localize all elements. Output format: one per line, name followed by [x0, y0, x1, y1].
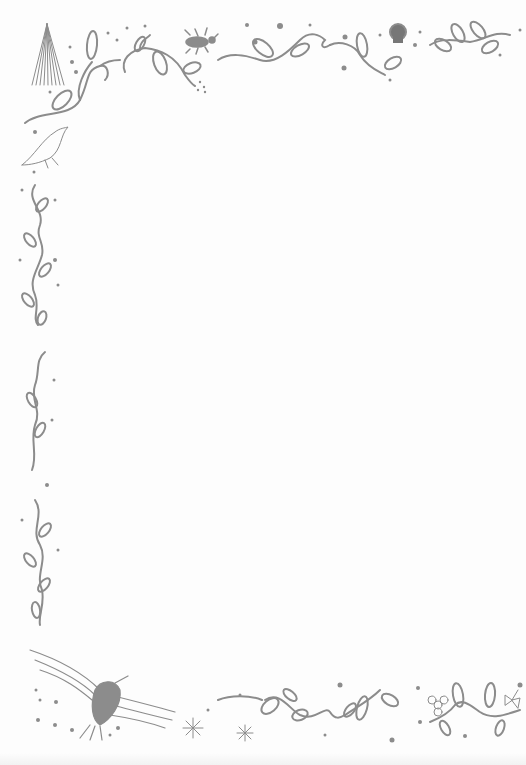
songbird-icon	[22, 127, 68, 168]
beetle-icon	[185, 28, 218, 54]
vine-bottom-icon	[218, 682, 520, 737]
page-edge-shade	[0, 753, 526, 765]
writing-area	[70, 90, 510, 690]
pine-tree-icon	[32, 24, 64, 85]
vine-top-right-icon	[218, 19, 510, 75]
butterfly-icon	[505, 690, 520, 708]
vine-left-edge-icon	[20, 185, 53, 625]
skull-icon	[390, 24, 406, 43]
snowflake-icon	[183, 718, 253, 741]
flower-icon	[428, 696, 448, 716]
